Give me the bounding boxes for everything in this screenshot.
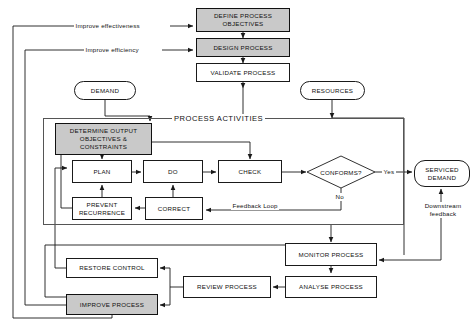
node-validate-process-label: VALIDATE PROCESS — [211, 69, 276, 77]
node-determine-output-objectives-constraints[interactable]: DETERMINE OUTPUT OBJECTIVES & CONSTRAINT… — [55, 123, 152, 155]
node-monitor-process[interactable]: MONITOR PROCESS — [285, 243, 377, 266]
node-determine-output-label: DETERMINE OUTPUT OBJECTIVES & CONSTRAINT… — [70, 127, 138, 150]
flowchart-canvas: PROCESS ACTIVITIES DEFINE PROCESS OBJECT… — [0, 0, 475, 329]
node-restore-control[interactable]: RESTORE CONTROL — [66, 258, 158, 278]
node-plan-label: PLAN — [93, 168, 110, 176]
node-check[interactable]: CHECK — [218, 160, 282, 183]
edge-label-feedback-loop: Feedback Loop — [231, 202, 279, 210]
node-improve-process[interactable]: IMPROVE PROCESS — [66, 294, 158, 315]
edge-label-improve-efficiency: Improve efficiency — [84, 46, 140, 54]
node-serviced-demand[interactable]: SERVICED DEMAND — [414, 160, 470, 187]
node-design-process-label: DESIGN PROCESS — [213, 44, 272, 52]
node-conforms-label: CONFORMS? — [306, 155, 376, 189]
node-define-process-objectives[interactable]: DEFINE PROCESS OBJECTIVES — [196, 8, 290, 32]
node-demand-label: DEMAND — [91, 87, 119, 95]
node-analyse-process-label: ANALYSE PROCESS — [299, 283, 363, 291]
node-design-process[interactable]: DESIGN PROCESS — [196, 38, 290, 57]
node-review-process[interactable]: REVIEW PROCESS — [183, 276, 271, 298]
node-validate-process[interactable]: VALIDATE PROCESS — [196, 63, 290, 82]
node-serviced-demand-label: SERVICED DEMAND — [425, 166, 459, 182]
node-analyse-process[interactable]: ANALYSE PROCESS — [285, 276, 377, 298]
edge-label-no: No — [334, 193, 345, 201]
node-review-process-label: REVIEW PROCESS — [197, 283, 257, 291]
edge-label-improve-effectiveness: Improve effectiveness — [74, 22, 141, 30]
node-demand[interactable]: DEMAND — [74, 81, 136, 100]
node-prevent-recurrence-label: PREVENT RECURRENCE — [79, 201, 125, 217]
node-correct[interactable]: CORRECT — [145, 197, 203, 220]
node-resources-label: RESOURCES — [312, 87, 353, 95]
node-correct-label: CORRECT — [158, 205, 190, 213]
edge-label-downstream-feedback: Downstream feedback — [419, 202, 467, 218]
node-define-process-objectives-label: DEFINE PROCESS OBJECTIVES — [214, 12, 272, 28]
node-do[interactable]: DO — [143, 160, 203, 183]
node-restore-control-label: RESTORE CONTROL — [79, 264, 145, 272]
node-do-label: DO — [168, 168, 178, 176]
node-resources[interactable]: RESOURCES — [300, 81, 365, 100]
process-activities-title: PROCESS ACTIVITIES — [172, 114, 265, 123]
node-monitor-process-label: MONITOR PROCESS — [299, 251, 364, 259]
node-improve-process-label: IMPROVE PROCESS — [80, 301, 144, 309]
node-check-label: CHECK — [239, 168, 262, 176]
node-conforms-decision[interactable]: CONFORMS? — [306, 155, 376, 189]
node-plan[interactable]: PLAN — [72, 160, 132, 183]
edge-label-yes: Yes — [382, 168, 396, 176]
node-prevent-recurrence[interactable]: PREVENT RECURRENCE — [72, 197, 132, 220]
